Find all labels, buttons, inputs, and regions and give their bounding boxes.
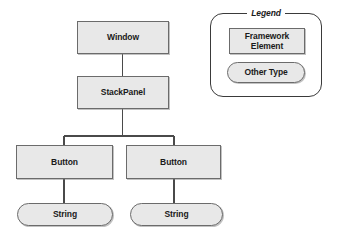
node-window[interactable]: Window: [77, 21, 169, 54]
legend-framework-line2: Element: [251, 41, 283, 51]
legend-item-framework-element: Framework Element: [229, 28, 305, 54]
node-button-left[interactable]: Button: [16, 145, 113, 179]
legend-item-other-type: Other Type: [227, 62, 305, 83]
node-string-right[interactable]: String: [130, 203, 223, 226]
diagram-canvas: Window StackPanel Button Button String S…: [0, 0, 338, 237]
legend-box: [210, 13, 322, 97]
node-string-left[interactable]: String: [17, 203, 113, 226]
node-button-right[interactable]: Button: [126, 145, 221, 179]
node-stackpanel[interactable]: StackPanel: [77, 76, 169, 109]
legend-framework-line1: Framework: [245, 31, 289, 41]
